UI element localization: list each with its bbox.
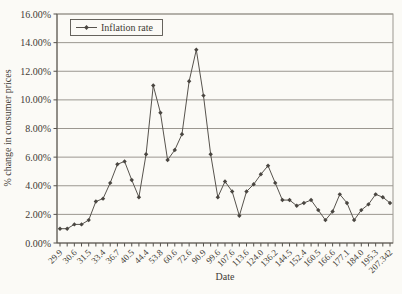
y-tick-label: 8.00%	[25, 123, 51, 134]
y-tick-label: 14.00%	[20, 37, 51, 48]
data-point-marker	[137, 195, 141, 199]
data-point-marker	[151, 83, 155, 87]
inflation-rate-series	[58, 48, 392, 231]
data-point-marker	[115, 162, 119, 166]
data-point-marker	[280, 198, 284, 202]
data-point-marker	[65, 226, 69, 230]
data-point-marker	[130, 178, 134, 182]
data-point-marker	[79, 222, 83, 226]
y-tick-label: 0.00%	[25, 238, 51, 249]
data-point-marker	[302, 201, 306, 205]
data-point-marker	[187, 79, 191, 83]
data-point-marker	[208, 152, 212, 156]
inflation-chart-figure: 0.00%2.00%4.00%6.00%8.00%10.00%12.00%14.…	[0, 0, 402, 294]
data-point-marker	[144, 152, 148, 156]
data-point-marker	[201, 93, 205, 97]
y-tick-label: 4.00%	[25, 180, 51, 191]
data-point-marker	[108, 181, 112, 185]
data-point-marker	[194, 48, 198, 52]
y-tick-label: 6.00%	[25, 152, 51, 163]
data-point-marker	[101, 196, 105, 200]
legend: Inflation rate	[71, 20, 163, 36]
data-point-marker	[158, 111, 162, 115]
data-point-marker	[94, 199, 98, 203]
y-axis-tick-labels: 0.00%2.00%4.00%6.00%8.00%10.00%12.00%14.…	[20, 9, 57, 249]
data-point-marker	[180, 132, 184, 136]
y-tick-label: 12.00%	[20, 66, 51, 77]
data-point-marker	[86, 218, 90, 222]
x-axis-title: Date	[216, 271, 235, 282]
y-tick-label: 2.00%	[25, 209, 51, 220]
y-tick-label: 10.00%	[20, 94, 51, 105]
data-point-marker	[273, 181, 277, 185]
data-point-marker	[58, 226, 62, 230]
data-point-marker	[72, 222, 76, 226]
data-point-marker	[216, 195, 220, 199]
y-axis-title: % change in consumer prices	[2, 69, 13, 186]
y-tick-label: 16.00%	[20, 9, 51, 20]
inflation-line-chart: 0.00%2.00%4.00%6.00%8.00%10.00%12.00%14.…	[0, 0, 402, 294]
gridlines	[57, 14, 393, 214]
data-point-marker	[122, 159, 126, 163]
legend-label: Inflation rate	[101, 22, 153, 33]
